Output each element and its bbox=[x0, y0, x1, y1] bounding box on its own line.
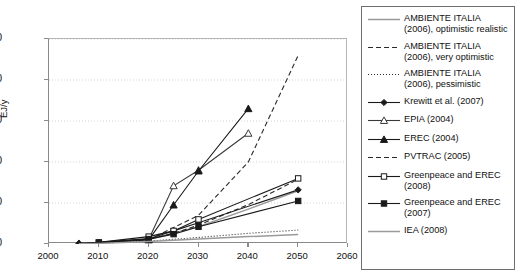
x-axis-tick bbox=[297, 243, 298, 247]
y-axis-tick bbox=[44, 38, 48, 39]
series-6 bbox=[149, 55, 299, 240]
chart-legend: AMBIENTE ITALIA (2006), optimistic reali… bbox=[361, 6, 515, 270]
legend-item-label: AMBIENTE ITALIA (2006), pessimistic bbox=[404, 68, 510, 90]
legend-item[interactable]: AMBIENTE ITALIA (2006), very optimistic bbox=[366, 41, 510, 63]
x-axis-tick-label: 2010 bbox=[78, 250, 118, 261]
legend-item[interactable]: EREC (2004) bbox=[366, 133, 510, 146]
legend-swatch-icon bbox=[366, 68, 404, 81]
chart-figure: EJ/y 01020304050200020102020203020402050… bbox=[0, 0, 521, 280]
legend-item-label: EPIA (2004) bbox=[404, 114, 454, 125]
legend-swatch-icon bbox=[366, 170, 404, 183]
legend-swatch-icon bbox=[366, 151, 404, 164]
x-axis-tick bbox=[347, 243, 348, 247]
y-axis-tick bbox=[44, 202, 48, 203]
series-layer bbox=[49, 39, 348, 244]
chart-plot-region: EJ/y 01020304050200020102020203020402050… bbox=[0, 0, 355, 280]
x-axis-tick-label: 2040 bbox=[227, 250, 267, 261]
data-point-marker bbox=[170, 182, 177, 189]
legend-item[interactable]: Krewitt et al. (2007) bbox=[366, 96, 510, 109]
series-line bbox=[99, 178, 298, 242]
series-1 bbox=[79, 179, 298, 243]
y-axis-tick-label: 40 bbox=[0, 73, 2, 84]
y-axis-tick-label: 20 bbox=[0, 155, 2, 166]
series-9 bbox=[79, 235, 298, 244]
series-line bbox=[149, 55, 299, 240]
series-line bbox=[79, 109, 248, 244]
legend-swatch-icon bbox=[366, 225, 404, 238]
data-point-marker bbox=[196, 224, 201, 229]
series-line bbox=[79, 179, 298, 243]
x-axis-tick bbox=[98, 243, 99, 247]
legend-item-label: PVTRAC (2005) bbox=[404, 151, 470, 162]
data-point-marker bbox=[245, 105, 252, 112]
y-axis-tick bbox=[44, 120, 48, 121]
x-axis-tick-label: 2020 bbox=[128, 250, 168, 261]
legend-item-label: Greenpeace and EREC (2007) bbox=[404, 197, 510, 219]
data-point-marker bbox=[381, 201, 386, 206]
y-axis-tick-label: 0 bbox=[0, 237, 2, 248]
legend-item-label: IEA (2008) bbox=[404, 225, 447, 236]
x-axis-tick bbox=[247, 243, 248, 247]
legend-swatch-icon bbox=[366, 197, 404, 210]
y-axis-tick bbox=[44, 79, 48, 80]
x-axis-tick-label: 2000 bbox=[28, 250, 68, 261]
legend-swatch-icon bbox=[366, 114, 404, 127]
data-point-marker bbox=[381, 99, 387, 105]
data-point-marker bbox=[295, 176, 300, 181]
legend-swatch-icon bbox=[366, 96, 404, 109]
legend-swatch-icon bbox=[366, 133, 404, 146]
series-5 bbox=[75, 105, 252, 244]
legend-item[interactable]: AMBIENTE ITALIA (2006), pessimistic bbox=[366, 68, 510, 90]
data-point-marker bbox=[381, 173, 386, 178]
y-axis-tick-label: 30 bbox=[0, 114, 2, 125]
legend-item-label: Greenpeace and EREC (2008) bbox=[404, 170, 510, 192]
legend-swatch-icon bbox=[366, 41, 404, 54]
data-point-marker bbox=[245, 130, 252, 137]
x-axis-tick bbox=[148, 243, 149, 247]
data-point-marker bbox=[171, 231, 176, 236]
y-axis-tick-label: 10 bbox=[0, 196, 2, 207]
data-point-marker bbox=[295, 198, 300, 203]
legend-item-label: AMBIENTE ITALIA (2006), very optimistic bbox=[404, 41, 510, 63]
x-axis-tick bbox=[198, 243, 199, 247]
x-axis-tick-label: 2050 bbox=[277, 250, 317, 261]
legend-item[interactable]: IEA (2008) bbox=[366, 225, 510, 238]
legend-item[interactable]: PVTRAC (2005) bbox=[366, 151, 510, 164]
legend-item[interactable]: Greenpeace and EREC (2007) bbox=[366, 197, 510, 219]
series-7 bbox=[96, 176, 301, 244]
data-point-marker bbox=[196, 217, 201, 222]
series-line bbox=[79, 235, 298, 244]
legend-swatch-icon bbox=[366, 13, 404, 26]
x-axis-tick bbox=[48, 243, 49, 247]
legend-item-label: EREC (2004) bbox=[404, 133, 459, 144]
legend-item[interactable]: AMBIENTE ITALIA (2006), optimistic reali… bbox=[366, 13, 510, 35]
legend-item-label: Krewitt et al. (2007) bbox=[404, 96, 484, 107]
legend-item[interactable]: Greenpeace and EREC (2008) bbox=[366, 170, 510, 192]
y-axis-tick-label: 50 bbox=[0, 32, 2, 43]
legend-item-label: AMBIENTE ITALIA (2006), optimistic reali… bbox=[404, 13, 510, 35]
y-axis-tick bbox=[44, 161, 48, 162]
legend-item[interactable]: EPIA (2004) bbox=[366, 114, 510, 127]
plot-canvas bbox=[48, 38, 347, 243]
x-axis-tick-label: 2030 bbox=[178, 250, 218, 261]
